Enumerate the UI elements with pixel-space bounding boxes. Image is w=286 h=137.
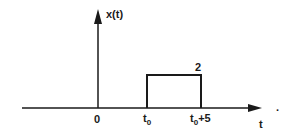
rectangular-pulse <box>147 75 201 108</box>
y-axis-label: x(t) <box>106 8 123 20</box>
y-axis-arrow-icon <box>94 9 102 24</box>
amplitude-label: 2 <box>195 61 201 73</box>
t0-label: t0 <box>143 112 152 127</box>
trailing-dot: . <box>276 101 279 113</box>
t0-plus-5-label: t0+5 <box>190 112 211 127</box>
x-axis-label: t <box>259 118 263 130</box>
pulse-diagram: x(t) t 0 2 t0 t0+5 . <box>0 0 286 137</box>
x-axis-arrow-icon <box>248 104 262 112</box>
origin-label: 0 <box>94 113 100 125</box>
